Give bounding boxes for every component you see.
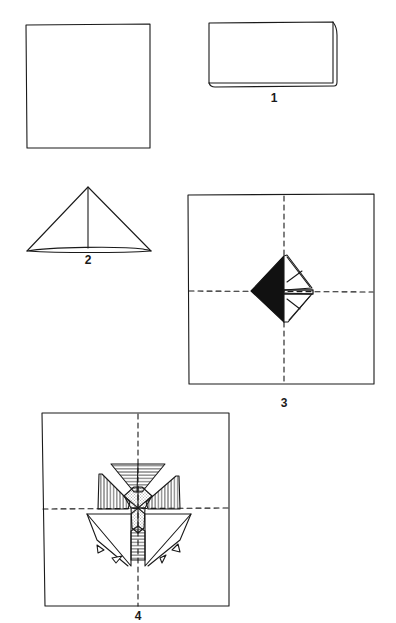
step-label-4: 4 [135, 609, 142, 623]
step-2-triangle [27, 187, 151, 253]
step-3-folded-diamond [188, 194, 374, 384]
step-1-rectangle [209, 22, 337, 87]
step-label-2: 2 [85, 253, 92, 267]
step-start-square [26, 24, 150, 148]
step-label-1: 1 [271, 91, 278, 105]
step-label-3: 3 [281, 396, 288, 410]
step-4-finished-star [42, 413, 229, 606]
